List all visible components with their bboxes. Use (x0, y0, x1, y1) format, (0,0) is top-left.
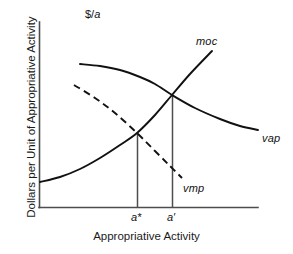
y-axis-title: Dollars per Unit of Appropriative Activi… (26, 18, 38, 218)
plot-area (0, 0, 293, 254)
vap-curve-label: vap (262, 133, 280, 144)
moc-curve-label: moc (196, 36, 217, 47)
y-axis-unit-label: $/a (85, 9, 100, 20)
moc-curve (40, 51, 212, 182)
vap-curve (80, 64, 258, 130)
vmp-curve-label: vmp (183, 183, 204, 194)
x-axis-title: Appropriative Activity (93, 231, 200, 243)
y-axis-unit-prefix: $/ (85, 8, 94, 20)
x-tick-label-a-star: a* (131, 212, 141, 223)
y-axis-unit-variable: a (94, 8, 100, 20)
economics-figure: $/a moc vap vmp a* a′ Appropriative Acti… (0, 0, 293, 254)
x-tick-label-a-prime: a′ (167, 212, 175, 223)
